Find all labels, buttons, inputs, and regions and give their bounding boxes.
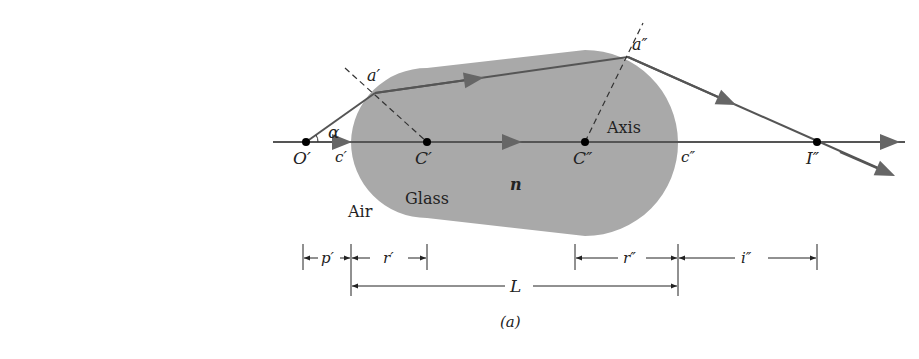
label-incidence-second: a″ [632, 35, 648, 54]
label-vertex-first: c′ [335, 148, 347, 166]
label-axis: Axis [606, 118, 641, 137]
label-angle: α [328, 122, 340, 142]
label-vertex-second: c″ [681, 148, 695, 166]
point-center-second [581, 138, 589, 146]
label-air: Air [347, 202, 373, 221]
label-center-first: C′ [415, 148, 432, 168]
dimension-lines [303, 244, 817, 296]
figure-caption: (a) [500, 313, 521, 331]
label-incidence-first: a′ [367, 66, 381, 85]
label-index: n [510, 175, 522, 194]
dim-radius-second: r″ [623, 249, 636, 267]
dim-object-distance: p′ [321, 249, 335, 267]
label-image: I″ [805, 148, 820, 168]
dim-image-distance: i″ [741, 249, 752, 267]
point-object [302, 138, 310, 146]
thick-lens-diagram: O′ c′ C′ C″ c″ I″ a′ a″ α Axis Air Glass… [0, 0, 919, 359]
point-center-first [423, 138, 431, 146]
dim-radius-first: r′ [383, 249, 394, 267]
label-center-second: C″ [573, 148, 593, 168]
dim-length: L [509, 276, 521, 296]
ray-end-arrow [840, 152, 886, 172]
label-glass: Glass [405, 189, 449, 208]
angle-arc [316, 135, 318, 142]
label-object: O′ [293, 148, 311, 168]
point-image [813, 138, 821, 146]
